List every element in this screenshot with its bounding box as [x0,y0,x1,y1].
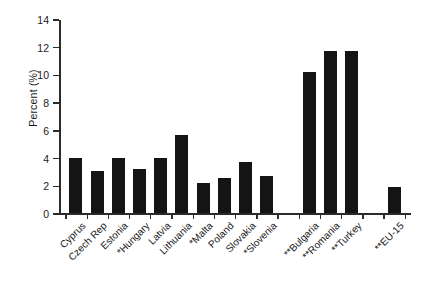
y-tick-label: 0 [43,208,49,220]
y-tick-label: 6 [43,125,49,137]
y-tick-0: 0 [53,213,59,214]
bar-chart: Percent (%) 02468101214 CyprusCzech RepE… [0,0,440,291]
y-tick-4: 4 [53,158,59,159]
y-tick-8: 8 [53,102,59,103]
x-axis-label-text: **EU-15 [372,220,405,253]
y-tick-label: 12 [37,42,49,54]
x-tick [65,214,66,219]
y-tick-12: 12 [53,47,59,48]
bar [69,158,82,213]
x-tick [383,214,384,219]
y-tick-label: 10 [37,69,49,81]
y-tick-10: 10 [53,75,59,76]
y-axis-line [59,20,61,214]
bar [303,72,316,213]
y-tick-label: 4 [43,153,49,165]
y-tick-label: 8 [43,97,49,109]
y-tick-2: 2 [53,186,59,187]
bar [324,51,337,213]
plot-area: 02468101214 [59,20,411,214]
y-tick-label: 2 [43,180,49,192]
bar [345,51,358,213]
y-tick-label: 14 [37,14,49,26]
y-tick-6: 6 [53,130,59,131]
y-axis-title: Percent (%) [27,43,39,153]
x-tick [299,214,300,219]
y-tick-14: 14 [53,19,59,20]
